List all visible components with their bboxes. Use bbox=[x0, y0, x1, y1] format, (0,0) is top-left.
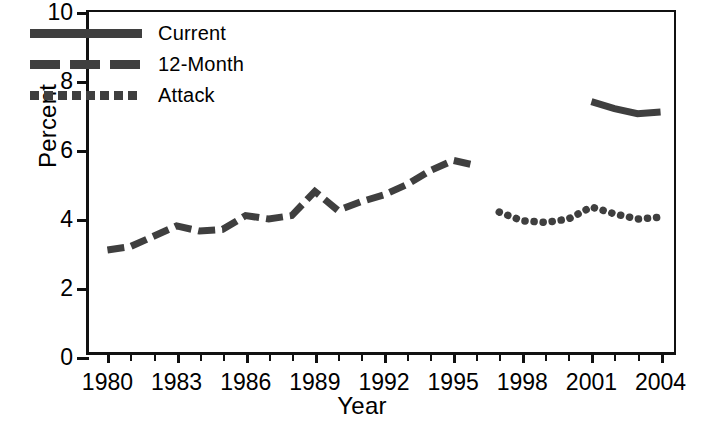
x-tick-mark bbox=[614, 352, 616, 361]
series-line-current bbox=[591, 102, 660, 114]
y-tick-mark bbox=[77, 288, 89, 291]
x-tick-mark bbox=[384, 352, 387, 363]
legend-item-current: Current bbox=[30, 18, 244, 49]
series-line-12-month bbox=[107, 160, 476, 250]
x-tick-label: 2004 bbox=[635, 369, 686, 396]
y-tick-label: 2 bbox=[60, 275, 73, 302]
x-tick-label: 1989 bbox=[289, 369, 340, 396]
x-tick-mark bbox=[661, 352, 664, 363]
y-tick-mark bbox=[77, 219, 89, 222]
legend-swatch-dot-icon bbox=[30, 91, 142, 100]
legend-swatch-dash-icon bbox=[30, 60, 142, 69]
x-tick-mark bbox=[522, 352, 525, 363]
x-tick-mark bbox=[453, 352, 456, 363]
x-tick-mark bbox=[292, 352, 294, 361]
legend-label: Attack bbox=[158, 84, 215, 107]
x-tick-label: 1995 bbox=[428, 369, 479, 396]
x-tick-label: 1986 bbox=[220, 369, 271, 396]
chart-legend: Current12-MonthAttack bbox=[30, 18, 244, 111]
x-tick-label: 1980 bbox=[82, 369, 133, 396]
legend-swatch-solid-icon bbox=[30, 29, 142, 38]
x-tick-label: 1983 bbox=[151, 369, 202, 396]
x-tick-mark bbox=[361, 352, 363, 361]
x-tick-label: 1998 bbox=[497, 369, 548, 396]
x-tick-mark bbox=[476, 352, 478, 361]
y-tick-mark bbox=[77, 150, 89, 153]
x-tick-mark bbox=[407, 352, 409, 361]
y-tick-mark bbox=[77, 357, 89, 360]
x-tick-mark bbox=[499, 352, 501, 361]
x-tick-mark bbox=[430, 352, 432, 361]
legend-item-12-month: 12-Month bbox=[30, 49, 244, 80]
x-tick-mark bbox=[269, 352, 271, 361]
x-axis-title: Year bbox=[0, 392, 724, 420]
legend-item-attack: Attack bbox=[30, 80, 244, 111]
x-tick-mark bbox=[130, 352, 132, 361]
series-line-attack bbox=[499, 207, 660, 223]
y-tick-label: 0 bbox=[60, 344, 73, 371]
x-tick-label: 2001 bbox=[566, 369, 617, 396]
x-tick-mark bbox=[154, 352, 156, 361]
y-tick-mark bbox=[77, 12, 89, 15]
x-tick-mark bbox=[591, 352, 594, 363]
x-tick-mark bbox=[638, 352, 640, 361]
x-tick-mark bbox=[568, 352, 570, 361]
y-tick-label: 6 bbox=[60, 137, 73, 164]
x-tick-mark bbox=[223, 352, 225, 361]
x-tick-label: 1992 bbox=[358, 369, 409, 396]
x-tick-mark bbox=[338, 352, 340, 361]
x-tick-mark bbox=[246, 352, 249, 363]
legend-label: 12-Month bbox=[158, 53, 244, 76]
legend-label: Current bbox=[158, 22, 226, 45]
y-tick-label: 4 bbox=[60, 206, 73, 233]
x-tick-mark bbox=[545, 352, 547, 361]
x-tick-mark bbox=[315, 352, 318, 363]
chart-figure: Percent Year 0246810 1980198319861989199… bbox=[0, 0, 724, 432]
x-tick-mark bbox=[200, 352, 202, 361]
x-tick-mark bbox=[107, 352, 110, 363]
x-tick-mark bbox=[177, 352, 180, 363]
